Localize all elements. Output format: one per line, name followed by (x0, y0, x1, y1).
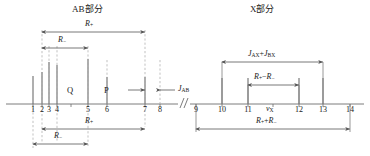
axis-tick-7: 7 (141, 105, 149, 114)
peak-label-p: P (104, 85, 109, 95)
panel-title-ab: AB部分 (72, 2, 103, 15)
label-r-plus-bottom: R+ (85, 116, 93, 125)
axis-tick-8: 8 (156, 105, 164, 114)
panel-title-x: X部分 (250, 2, 275, 15)
axis-label-nu-x: νX (266, 104, 274, 113)
axis-tick-4: 4 (53, 105, 61, 114)
axis-tick-1: 1 (29, 105, 37, 114)
ab-peak-group (33, 59, 145, 104)
x-peak-group (222, 78, 323, 104)
axis-tick-13: 13 (317, 105, 329, 114)
label-rplus-minus-rminus: R+−R− (254, 72, 275, 81)
axis-tick-11: 11 (242, 105, 254, 114)
axis-tick-6: 6 (103, 105, 111, 114)
peak-label-q: Q (67, 85, 73, 95)
ab-guide-group (42, 30, 160, 142)
axis-tick-12: 12 (293, 105, 305, 114)
label-r-plus-top: R+ (85, 19, 93, 28)
label-r-minus-bottom: R− (54, 131, 62, 140)
label-r-minus-top: R− (58, 35, 66, 44)
axis-tick-14: 14 (344, 105, 356, 114)
axis-tick-5: 5 (84, 105, 92, 114)
label-j-ab: JAB (178, 84, 189, 93)
axis-tick-10: 10 (216, 105, 228, 114)
label-jax-jbx: JAX+JBX (248, 49, 275, 58)
axis-tick-3: 3 (45, 105, 53, 114)
axis-break-icon (180, 98, 188, 108)
axis-tick-9: 9 (192, 105, 200, 114)
label-rplus-plus-rminus: R++R− (256, 116, 277, 125)
